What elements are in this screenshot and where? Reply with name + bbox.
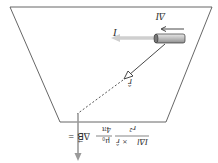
delta-l-label: ΔI⃗ xyxy=(148,11,166,22)
formula-lhs: ΔB⃗ = xyxy=(68,131,90,143)
formula-const-num: μ₀ xyxy=(102,137,110,147)
cylinder-end-cap xyxy=(154,34,158,43)
formula-const-den: 4π xyxy=(102,125,112,135)
field-arrowhead xyxy=(75,153,82,161)
r-vector-line xyxy=(129,44,165,75)
formula-frac-num: IΔl⃗ × r̂ xyxy=(116,137,149,147)
formula-frac-den: r² xyxy=(129,124,136,134)
unit-vector-label: r̂ xyxy=(128,77,132,88)
current-element-cylinder xyxy=(155,34,185,43)
dashed-line xyxy=(77,80,123,114)
biot-savart-diagram: ΔI⃗ I r̂ ΔB⃗ = μ₀ 4π IΔl⃗ × r̂ r² xyxy=(0,0,218,163)
plane-outline xyxy=(10,7,212,122)
